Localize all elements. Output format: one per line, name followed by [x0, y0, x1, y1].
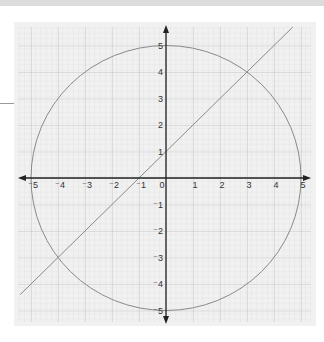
y-tick-label: 1 [158, 147, 163, 157]
x-tick-label: ⁻5 [28, 180, 38, 190]
x-tick-label: ⁻3 [82, 180, 92, 190]
x-tick-label: ⁻2 [109, 180, 119, 190]
x-tick-label: ⁻4 [55, 180, 65, 190]
y-tick-label: 3 [158, 94, 163, 104]
x-tick-label: 0 [159, 180, 164, 190]
x-tick-label: 4 [273, 180, 278, 190]
y-tick-label: 5 [158, 41, 163, 51]
coordinate-plane: ⁻5⁻4⁻3⁻2⁻101234554321⁻1⁻2⁻3⁻4⁻5 [0, 0, 324, 342]
x-tick-label: 1 [192, 180, 197, 190]
y-tick-label: 4 [158, 67, 163, 77]
grid [18, 27, 311, 322]
x-tick-label: ⁻1 [136, 180, 146, 190]
y-tick-label: 2 [158, 120, 163, 130]
x-tick-label: 3 [246, 180, 251, 190]
y-tick-label: ⁻1 [153, 200, 163, 210]
y-tick-label: ⁻2 [153, 226, 163, 236]
y-tick-label: ⁻5 [153, 306, 163, 316]
x-tick-label: 5 [300, 180, 305, 190]
x-tick-label: 2 [219, 180, 224, 190]
y-tick-label: ⁻3 [153, 253, 163, 263]
y-tick-label: ⁻4 [153, 279, 163, 289]
